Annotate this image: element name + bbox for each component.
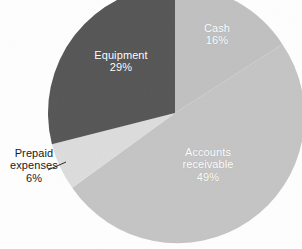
pie-chart-figure: Cash 16% Equipment 29% Accounts receivab…: [0, 0, 302, 249]
pie-chart-canvas: [0, 0, 302, 249]
scan-grain-overlay: [0, 0, 302, 249]
